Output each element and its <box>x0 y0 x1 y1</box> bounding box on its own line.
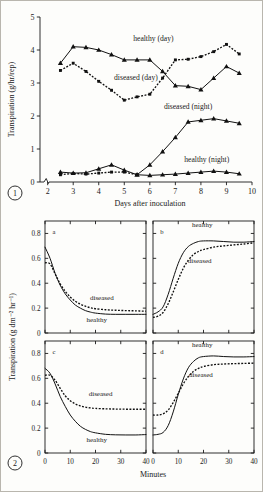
series-line-diseased-night- <box>137 119 239 175</box>
data-point-marker <box>238 53 241 56</box>
data-point-marker <box>187 58 190 61</box>
panel-1-axes: 0123452345678910Days after inoculationTr… <box>7 13 257 208</box>
data-point-marker <box>97 172 100 175</box>
data-point-marker <box>123 171 126 174</box>
x-tick-label: 5 <box>122 187 126 196</box>
x-tick-label: 0 <box>151 458 155 466</box>
data-point-marker <box>161 77 164 80</box>
y-tick-label: 2 <box>31 112 35 121</box>
y-tick-label: 0.8 <box>32 230 41 238</box>
series-label-diseased: diseased <box>188 257 212 265</box>
data-point-marker <box>136 95 139 98</box>
data-point-marker <box>211 116 216 120</box>
series-label-healthy-night-: healthy (night) <box>184 155 229 164</box>
panel-1-series: healthy (day)diseased (day)diseased (nig… <box>58 34 242 177</box>
y-tick-label: 0 <box>37 450 41 458</box>
y-tick-label: 0.4 <box>32 400 41 408</box>
subpanel-b-frame <box>153 221 254 333</box>
data-point-marker <box>148 93 151 96</box>
subpanel-letter: b <box>160 228 164 235</box>
data-point-marker <box>59 173 62 176</box>
series-curve-healthy <box>45 247 146 314</box>
data-point-marker <box>110 89 113 92</box>
series-label-diseased: diseased <box>90 294 114 302</box>
subpanel-a: 00.20.40.60.8ahealthydiseased <box>32 221 146 338</box>
data-point-marker <box>199 55 202 58</box>
data-point-marker <box>174 58 177 61</box>
panel-1-plot: 0123452345678910Days after inoculationTr… <box>1 1 263 213</box>
subpanel-b: bhealthydiseased <box>153 221 254 333</box>
x-tick-label: 40 <box>142 458 150 466</box>
y-tick-label: 0.8 <box>32 350 41 358</box>
figure-number-text: 1 <box>13 189 17 198</box>
x-tick-label: 6 <box>148 187 152 196</box>
x-tick-label: 20 <box>200 458 208 466</box>
series-label-healthy-day-: healthy (day) <box>133 34 174 43</box>
data-point-marker <box>225 43 228 46</box>
x-tick-label: 7 <box>173 187 177 196</box>
y-tick-label: 0.6 <box>32 375 41 383</box>
series-line-healthy-day- <box>60 47 239 90</box>
data-point-marker <box>109 162 114 166</box>
subpanel-letter: d <box>160 348 164 355</box>
data-point-marker <box>110 171 113 174</box>
x-tick-label: 20 <box>92 458 100 466</box>
data-point-marker <box>211 169 216 173</box>
series-curve-healthy <box>153 356 254 435</box>
y-axis-title: Transpiration (g/hr/rep) <box>7 61 16 137</box>
subpanel-d-frame <box>153 341 254 453</box>
x-axis-title: Days after inoculation <box>114 199 185 208</box>
y-tick-label: 5 <box>31 13 35 22</box>
x-tick-label: 2 <box>46 187 50 196</box>
x-tick-label: 8 <box>199 187 203 196</box>
series-curve-diseased <box>45 263 146 312</box>
data-point-marker <box>212 50 215 53</box>
x-tick-label: 10 <box>248 187 256 196</box>
x-tick-label: 10 <box>175 458 183 466</box>
series-curve-diseased <box>153 243 254 318</box>
x-axis-title: Minutes <box>140 470 166 479</box>
series-label-healthy: healthy <box>86 436 107 444</box>
panel-1-transpiration-days: 0123452345678910Days after inoculationTr… <box>1 1 263 213</box>
figure-number-text: 2 <box>13 459 17 468</box>
data-point-marker <box>123 99 126 102</box>
y-tick-label: 4 <box>31 46 35 55</box>
y-tick-label: 0.4 <box>32 280 41 288</box>
data-point-marker <box>72 62 75 65</box>
series-label-diseased: diseased <box>189 371 213 379</box>
x-tick-label: 0 <box>43 458 47 466</box>
subpanel-d: 010203040dhealthydiseased <box>151 341 258 466</box>
figure-number-1: 1 <box>8 186 22 200</box>
subpanel-letter: c <box>53 348 56 355</box>
x-tick-label: 9 <box>224 187 228 196</box>
y-tick-label: 0.2 <box>32 305 41 313</box>
series-label-diseased: diseased <box>89 390 113 398</box>
y-axis-title: Transpiration (g dm⁻² hr⁻¹) <box>8 293 17 381</box>
x-tick-label: 30 <box>117 458 125 466</box>
data-point-marker <box>59 69 62 72</box>
y-tick-label: 0.2 <box>32 425 41 433</box>
y-tick-label: 0.6 <box>32 255 41 263</box>
subpanel-c: 00.20.40.60.8010203040chealthydiseased <box>32 341 150 466</box>
x-axis-line <box>40 179 252 184</box>
x-tick-label: 40 <box>250 458 258 466</box>
y-tick-label: 0 <box>31 178 35 187</box>
x-tick-label: 10 <box>67 458 75 466</box>
subpanel-letter: a <box>53 228 56 235</box>
panel-2-plot: 00.20.40.60.8ahealthydiseasedbhealthydis… <box>1 213 263 492</box>
x-tick-label: 3 <box>71 187 75 196</box>
series-curve-healthy <box>45 368 146 435</box>
y-tick-label: 0 <box>37 330 41 338</box>
data-point-marker <box>97 80 100 83</box>
series-label-diseased-night-: diseased (night) <box>164 102 213 111</box>
y-tick-label: 1 <box>31 145 35 154</box>
panel-2-transpiration-minutes: 00.20.40.60.8ahealthydiseasedbhealthydis… <box>1 213 263 492</box>
series-label-healthy: healthy <box>192 341 213 349</box>
figure-number-2: 2 <box>8 456 22 470</box>
x-tick-label: 30 <box>225 458 233 466</box>
figure-container: 0123452345678910Days after inoculationTr… <box>0 0 263 492</box>
y-tick-label: 3 <box>31 79 35 88</box>
x-tick-label: 4 <box>97 187 101 196</box>
data-point-marker <box>85 70 88 73</box>
data-point-marker <box>72 172 75 175</box>
